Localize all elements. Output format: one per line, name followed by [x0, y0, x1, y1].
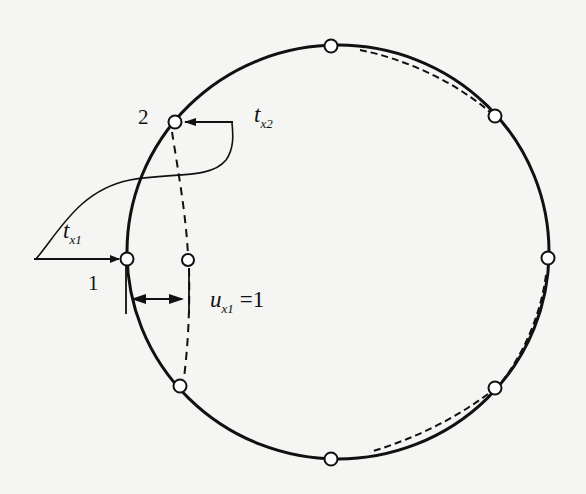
- mesh-nodes: [121, 40, 555, 466]
- node-2: [169, 116, 182, 129]
- node-bottom: [325, 453, 338, 466]
- node-top: [325, 40, 338, 53]
- traction-t-x2-label: tx2: [254, 103, 273, 126]
- node-right: [542, 252, 555, 265]
- node-2-label: 2: [138, 107, 149, 128]
- displaced-node-1: [182, 254, 194, 266]
- node-1: [121, 253, 134, 266]
- node-1-label: 1: [88, 273, 99, 294]
- traction-t-x1-label: tx1: [63, 219, 82, 242]
- node-lower-left: [174, 380, 187, 393]
- node-upper-right: [489, 110, 502, 123]
- mesh-diagram: [0, 0, 586, 494]
- diagram-canvas: 2 1 tx2 tx1 ux1=1: [0, 0, 586, 494]
- displacement-u-x1-label: ux1=1: [210, 288, 264, 311]
- node-lower-right: [489, 382, 502, 395]
